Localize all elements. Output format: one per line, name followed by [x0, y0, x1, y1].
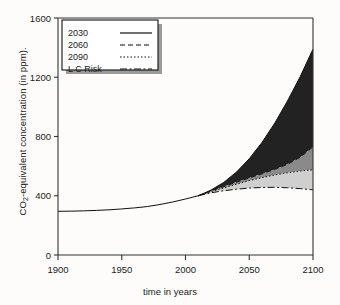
- y-tick-label: 400: [35, 190, 51, 201]
- x-axis-label: time in years: [0, 286, 340, 297]
- x-tick-label: 2100: [302, 264, 323, 275]
- y-axis-label-prefix: CO: [17, 201, 28, 215]
- y-axis-label: CO2-equivalent concentration (in ppm).: [17, 16, 30, 246]
- x-tick-label: 2050: [239, 264, 260, 275]
- legend-label-2030: 2030: [68, 28, 88, 38]
- y-axis-label-subscript: 2: [22, 197, 29, 201]
- legend-label-2090: 2090: [68, 52, 88, 62]
- x-tick-label: 1900: [47, 264, 68, 275]
- chart-figure: 040080012001600 19001950200020502100 203…: [0, 0, 340, 305]
- legend-label-2060: 2060: [68, 40, 88, 50]
- y-tick-label: 1600: [30, 13, 51, 24]
- y-tick-label: 800: [35, 131, 51, 142]
- x-tick-label: 2000: [175, 264, 196, 275]
- y-tick-label: 1200: [30, 72, 51, 83]
- co2-projection-chart: 040080012001600 19001950200020502100 203…: [0, 0, 340, 305]
- legend-label-l-c-risk: L C Risk: [68, 64, 102, 74]
- y-axis-label-suffix: -equivalent concentration (in ppm).: [17, 47, 28, 197]
- x-tick-label: 1950: [111, 264, 132, 275]
- chart-legend[interactable]: 203020602090L C Risk: [62, 20, 162, 74]
- y-tick-label: 0: [46, 250, 51, 261]
